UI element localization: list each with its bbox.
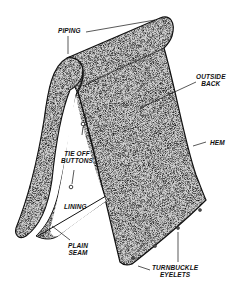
eyelet-1	[132, 257, 135, 260]
tie-off-button-top	[81, 122, 85, 126]
label-outside-back-line1: OUTSIDE	[196, 73, 226, 80]
tie-off-button-bottom	[69, 185, 73, 189]
label-piping: PIPING	[58, 27, 81, 34]
sling-cover-diagram	[0, 0, 241, 286]
eyelet-3	[177, 227, 180, 230]
label-outside-back: OUTSIDE BACK	[196, 73, 226, 87]
eyelet-2	[154, 245, 157, 248]
label-lining: LINING	[64, 203, 87, 210]
label-tie-off-buttons: TIE OFF BUTTONS	[61, 150, 93, 164]
label-plain-seam: PLAIN SEAM	[68, 242, 88, 256]
label-tie-off-line1: TIE OFF	[61, 150, 93, 157]
label-plain-seam-line1: PLAIN	[68, 242, 88, 249]
label-turnbuckle-line1: TURNBUCKLE	[152, 264, 198, 271]
label-outside-back-line2: BACK	[196, 80, 226, 87]
label-turnbuckle-line2: EYELETS	[152, 271, 198, 278]
label-tie-off-line2: BUTTONS	[61, 157, 93, 164]
eyelet-4	[199, 209, 202, 212]
label-turnbuckle-eyelets: TURNBUCKLE EYELETS	[152, 264, 198, 278]
label-hem: HEM	[210, 139, 225, 146]
label-plain-seam-line2: SEAM	[68, 249, 88, 256]
